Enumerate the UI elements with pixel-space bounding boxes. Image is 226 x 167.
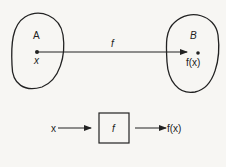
block-output-label: f(x) [167,123,181,134]
element-x-label: x [33,55,40,66]
element-fx-dot [196,51,200,55]
element-fx-label: f(x) [186,57,200,68]
set-b-label: B [190,30,197,41]
block-input-label: x [51,123,56,134]
mapping-label: f [111,38,115,49]
function-diagram: A x f B f(x) x f f(x) [0,0,226,167]
set-b-blob [166,15,218,93]
set-a-label: A [33,30,40,41]
function-box-label: f [112,123,116,134]
